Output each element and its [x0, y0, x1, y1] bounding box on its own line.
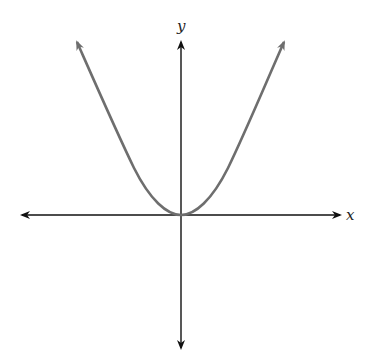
x-axis-label: x: [346, 206, 355, 224]
parabola-diagram: y x: [0, 0, 379, 361]
y-axis-label: y: [176, 17, 186, 35]
